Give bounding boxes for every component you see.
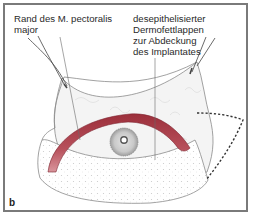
- label-line: desepithelisierter: [133, 13, 206, 24]
- label-line: Rand des M. pectoralis: [14, 13, 112, 24]
- label-line: Dermofettlappen: [133, 24, 206, 35]
- label-pectoralis-margin: Rand des M. pectoralis major: [14, 13, 112, 35]
- label-line: des Implantates: [133, 46, 206, 57]
- label-line: zur Abdeckung: [133, 35, 206, 46]
- panel-letter: b: [9, 197, 15, 208]
- areola: [110, 128, 138, 156]
- label-dermal-fat-flap: desepithelisierter Dermofettlappen zur A…: [133, 13, 206, 57]
- label-line: major: [14, 24, 112, 35]
